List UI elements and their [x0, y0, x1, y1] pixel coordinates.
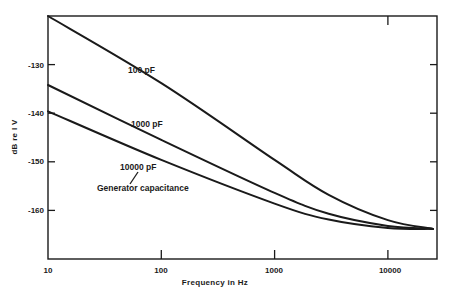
chart: 10 100 1000 10000 -130 -140 -150 -160 Fr…	[0, 0, 450, 296]
y-tick-label-140: -140	[28, 109, 45, 118]
curve-10000pf	[48, 111, 433, 229]
curve-label-10000pf: 10000 pF	[120, 162, 156, 172]
x-tick-label-100: 100	[154, 266, 168, 275]
annotation-generator-capacitance: Generator capacitance	[97, 183, 189, 193]
y-tick-label-130: -130	[28, 61, 45, 70]
curve-100pf	[48, 16, 433, 229]
curve-label-100pf: 100 pF	[128, 65, 155, 75]
curve-label-1000pf: 1000 pF	[131, 119, 163, 129]
y-tick-label-150: -150	[28, 157, 45, 166]
x-tick-label-1000: 1000	[265, 266, 283, 275]
curve-1000pf	[48, 85, 433, 229]
y-tick-label-160: -160	[28, 206, 45, 215]
x-axis-title: Frequency in Hz	[182, 278, 248, 287]
x-tick-label-10000: 10000	[379, 266, 402, 275]
curves	[48, 16, 433, 229]
y-axis-title: dB re I V	[10, 119, 19, 155]
x-tick-label-10: 10	[44, 266, 53, 275]
